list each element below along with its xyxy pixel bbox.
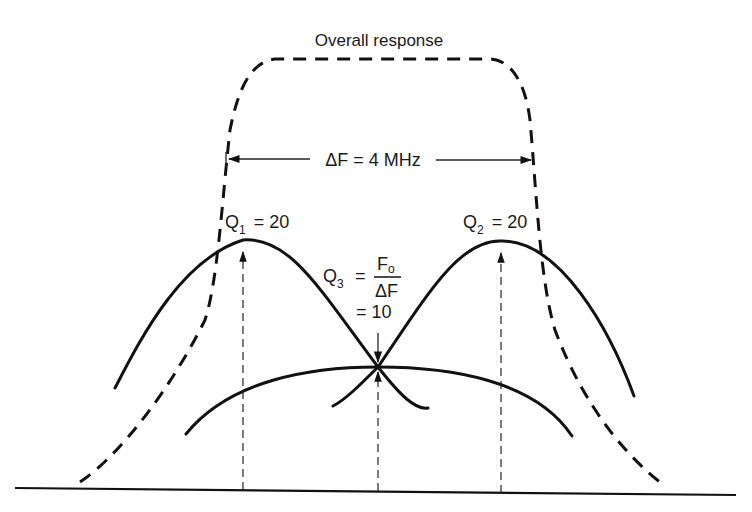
stagger-tuned-response-diagram: Overall response ΔF = 4 MHz Q1= 20 Q2= 2… [0, 0, 752, 512]
svg-text:Q1= 20: Q1= 20 [225, 212, 289, 237]
frequency-axis [15, 488, 736, 495]
overall-response-curve [80, 59, 665, 486]
svg-text:Fo: Fo [377, 254, 395, 276]
bandwidth-label: ΔF = 4 MHz [325, 150, 421, 170]
svg-text:Q2= 20: Q2= 20 [463, 212, 527, 237]
svg-text:ΔF: ΔF [375, 281, 398, 301]
svg-text:Q3: Q3 [323, 266, 344, 291]
svg-text:= 10: = 10 [356, 302, 392, 322]
stage-3-response-curve [186, 367, 572, 436]
overall-response-label: Overall response [315, 31, 444, 50]
svg-text:=: = [355, 266, 366, 286]
q2-label: Q2= 20 [463, 212, 527, 237]
q3-formula: Q3 = Fo ΔF = 10 [323, 254, 401, 322]
q1-label: Q1= 20 [225, 212, 289, 237]
